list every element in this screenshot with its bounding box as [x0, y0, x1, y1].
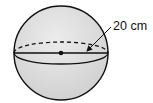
diameter-label: 20 cm [113, 19, 147, 33]
sphere-diagram: 20 cm [0, 0, 153, 103]
center-point [59, 51, 64, 56]
